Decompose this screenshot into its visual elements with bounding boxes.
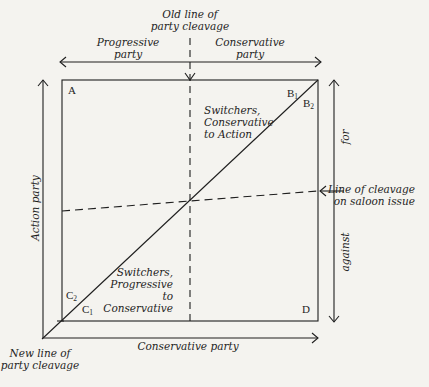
corner-b1-label: B1 [287,87,298,101]
svg-text:B2: B2 [303,97,314,111]
corner-a-label: A [68,84,76,96]
corner-c1-label: C1 [82,303,93,317]
switchers-bottom-label-1: Switchers, [117,266,173,278]
corner-d-label: D [302,303,310,315]
conservative-party-top-label-2: party [236,48,265,60]
conservative-party-bottom-label: Conservative party [137,340,239,352]
against-label: against [339,232,351,272]
svg-text:C1: C1 [82,303,93,317]
switchers-bottom-label-3: to [162,290,173,302]
switchers-top-label-1: Switchers, [204,104,260,116]
conservative-party-top-label-1: Conservative [215,36,285,48]
corner-c2-label: C2 [66,289,77,303]
switchers-top-label-3: to Action [204,128,252,140]
progressive-party-label-1: Progressive [96,36,160,48]
switchers-top-label-2: Conservative [204,116,274,128]
party-cleavage-diagram: Old line of party cleavage Progressive p… [0,0,429,387]
svg-text:B1: B1 [287,87,298,101]
switchers-bottom-label-4: Conservative [103,302,173,314]
corner-b2-label: B2 [303,97,314,111]
progressive-party-label-2: party [114,48,143,60]
new-line-label-1: New line of [9,347,73,359]
new-line-label-2: party cleavage [1,359,79,371]
svg-text:C2: C2 [66,289,77,303]
for-label: for [339,128,351,145]
switchers-bottom-label-2: Progressive [109,278,173,290]
new-cleavage-line [42,80,318,339]
old-line-label-2: party cleavage [151,20,229,32]
old-line-label-1: Old line of [162,8,219,20]
saloon-label-1: Line of cleavage [327,183,415,195]
saloon-label-2: on saloon issue [334,195,415,207]
action-party-label: Action party [29,174,41,242]
